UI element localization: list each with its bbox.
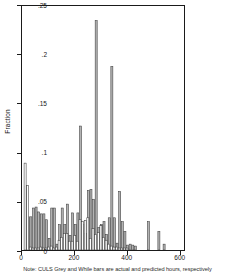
histogram-bar	[35, 248, 37, 250]
histogram-bars	[22, 6, 184, 250]
y-tick-p15: .15	[38, 100, 47, 107]
histogram-bar	[27, 186, 29, 250]
y-tick-0: 0	[43, 248, 47, 255]
y-axis-label: Fraction	[4, 97, 11, 147]
histogram-bar	[119, 191, 121, 250]
histogram-bar	[32, 208, 34, 250]
histogram-bar	[37, 248, 39, 250]
histogram-bar	[132, 245, 134, 250]
histogram-bar	[163, 244, 165, 250]
histogram-bar	[111, 67, 113, 250]
histogram-bar	[105, 240, 107, 250]
histogram-bar	[63, 233, 65, 250]
histogram-bar	[87, 218, 89, 250]
histogram-bar	[58, 240, 60, 250]
histogram-bar	[126, 248, 128, 250]
histogram-bar	[43, 214, 45, 250]
x-tick-mark	[74, 251, 75, 255]
histogram-bar	[82, 222, 84, 250]
histogram-bar	[55, 247, 57, 250]
histogram-bar	[66, 233, 68, 250]
histogram-bar	[124, 231, 126, 250]
histogram-bar	[158, 231, 160, 250]
bars-svg	[22, 6, 184, 250]
histogram-bar	[89, 238, 91, 250]
y-tick-mark	[17, 153, 21, 154]
y-tick-mark	[17, 202, 21, 203]
histogram-bar	[46, 220, 48, 250]
histogram-bar	[50, 246, 52, 250]
figure-note: Note: CULS Grey and While bars are actua…	[0, 266, 235, 272]
y-tick-p1: .1	[42, 149, 47, 156]
histogram-bar	[92, 229, 94, 250]
histogram-bar	[147, 222, 149, 250]
histogram-bar	[53, 208, 55, 250]
histogram-bar	[121, 248, 123, 250]
histogram-bar	[29, 247, 31, 250]
y-tick-p2: .2	[42, 51, 47, 58]
histogram-bar	[35, 207, 37, 250]
histogram-bar	[61, 237, 63, 250]
histogram-bar	[40, 214, 42, 250]
histogram-bar	[51, 208, 53, 250]
histogram-bar	[134, 246, 136, 250]
plot-area	[21, 5, 185, 251]
histogram-bar	[71, 241, 73, 250]
histogram-bar	[53, 248, 55, 250]
histogram-figure: Fraction Note: CULS Grey and While bars …	[0, 0, 235, 279]
histogram-bar	[32, 248, 34, 250]
histogram-bar	[24, 163, 26, 250]
y-tick-p05: .05	[38, 198, 47, 205]
x-tick-mark	[127, 251, 128, 255]
y-tick-mark	[17, 5, 21, 6]
x-tick-0: 0	[19, 254, 23, 261]
y-tick-p25: .25	[38, 2, 47, 9]
x-tick-400: 400	[121, 254, 132, 261]
histogram-bar	[69, 241, 71, 250]
x-tick-200: 200	[68, 254, 79, 261]
histogram-bar	[113, 218, 115, 250]
histogram-bar	[121, 222, 123, 250]
histogram-bar	[74, 235, 76, 250]
histogram-bar	[97, 232, 99, 250]
histogram-bar	[116, 247, 118, 250]
histogram-bar	[40, 247, 42, 250]
histogram-bar	[84, 221, 86, 250]
histogram-bar	[123, 248, 125, 250]
histogram-bar	[95, 234, 97, 250]
histogram-bar	[129, 244, 131, 250]
histogram-bar	[30, 217, 32, 250]
histogram-bar	[102, 237, 104, 250]
histogram-bar	[118, 248, 120, 250]
histogram-bar	[108, 244, 110, 250]
x-tick-mark	[21, 251, 22, 255]
x-tick-600: 600	[174, 254, 185, 261]
histogram-bar	[38, 212, 40, 250]
histogram-bar	[48, 247, 50, 250]
y-tick-mark	[17, 103, 21, 104]
histogram-bar	[110, 246, 112, 250]
y-tick-mark	[17, 54, 21, 55]
x-tick-mark	[180, 251, 181, 255]
histogram-bar	[79, 220, 81, 250]
histogram-bar	[113, 247, 115, 250]
histogram-bar	[95, 21, 97, 250]
histogram-bar	[76, 241, 78, 250]
histogram-bar	[100, 226, 102, 250]
